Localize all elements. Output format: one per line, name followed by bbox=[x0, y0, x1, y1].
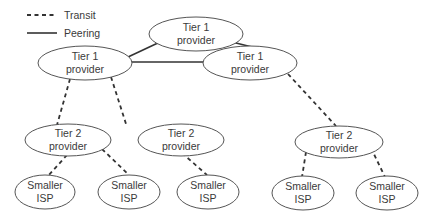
node-label-line2: provider bbox=[177, 34, 215, 46]
node-label-line1: Smaller bbox=[190, 179, 226, 191]
edge-transit-t1left-t2mid bbox=[111, 77, 127, 127]
legend: Transit Peering bbox=[27, 9, 100, 39]
legend-peering-label: Peering bbox=[64, 27, 100, 39]
node-label-line1: Smaller bbox=[369, 180, 405, 192]
edge-transit-t2left-isp2 bbox=[102, 149, 129, 175]
node-label-line1: Smaller bbox=[27, 179, 63, 191]
node-label-line2: ISP bbox=[379, 193, 396, 205]
legend-transit-label: Transit bbox=[64, 9, 96, 21]
node-label-line2: provider bbox=[320, 142, 358, 154]
node-label-line2: ISP bbox=[37, 192, 54, 204]
edge-transit-t2left-isp1 bbox=[48, 155, 67, 176]
node-label-line2: ISP bbox=[295, 193, 312, 205]
node-label-line2: provider bbox=[66, 63, 104, 75]
node-label-line2: provider bbox=[231, 63, 269, 75]
node-tier2-left: Tier 2 provider bbox=[25, 124, 111, 156]
node-label-line1: Smaller bbox=[111, 179, 147, 191]
node-tier2-right: Tier 2 provider bbox=[295, 126, 383, 158]
node-tier2-middle: Tier 2 provider bbox=[138, 124, 224, 156]
node-tier1-right: Tier 1 provider bbox=[203, 46, 297, 80]
node-label-line1: Smaller bbox=[285, 180, 321, 192]
node-isp-3: Smaller ISP bbox=[177, 175, 239, 209]
node-label-line1: Tier 2 bbox=[326, 129, 353, 141]
node-isp-5: Smaller ISP bbox=[356, 176, 418, 210]
node-label-line2: provider bbox=[49, 140, 87, 152]
node-label-line2: ISP bbox=[121, 192, 138, 204]
node-isp-1: Smaller ISP bbox=[15, 175, 75, 209]
node-tier1-top: Tier 1 provider bbox=[149, 17, 243, 51]
node-isp-4: Smaller ISP bbox=[272, 176, 334, 210]
isp-hierarchy-diagram: Transit Peering Tier 1 provider Tier 1 p… bbox=[0, 0, 435, 217]
node-label-line1: Tier 2 bbox=[55, 127, 82, 139]
node-label-line1: Tier 2 bbox=[168, 127, 195, 139]
edge-transit-t1left-t2left bbox=[57, 79, 70, 125]
node-label-line1: Tier 1 bbox=[237, 50, 264, 62]
node-label-line2: ISP bbox=[200, 192, 217, 204]
edge-peering-top-left bbox=[128, 42, 160, 57]
node-label-line1: Tier 1 bbox=[183, 21, 210, 33]
node-label-line2: provider bbox=[162, 140, 200, 152]
node-label-line1: Tier 1 bbox=[72, 50, 99, 62]
edge-transit-t2right-isp4 bbox=[302, 152, 306, 177]
edge-transit-t1right-t2right bbox=[288, 74, 336, 126]
node-tier1-left: Tier 1 provider bbox=[38, 46, 132, 80]
node-isp-2: Smaller ISP bbox=[98, 175, 160, 209]
